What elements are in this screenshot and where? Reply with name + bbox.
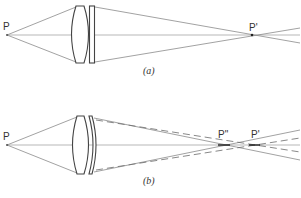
caption-b: (b) (143, 175, 155, 187)
panel-b: P P" P' (b) (3, 116, 300, 187)
incident-ray-lower-b (7, 145, 77, 173)
plane-plate-a (90, 6, 95, 63)
image-label-p-double-prime-b: P" (218, 129, 229, 140)
biconvex-lens-a (72, 6, 89, 63)
refracted-ray-upper-a (95, 7, 300, 43)
panel-a: P P' (a) (3, 6, 300, 77)
optics-diagram: P P' (a) P P" P' (b) (0, 0, 301, 198)
object-label-b: P (3, 131, 10, 142)
incident-ray-upper-a (7, 7, 76, 35)
image-label-p-prime-b: P' (251, 129, 260, 140)
object-label-a: P (3, 21, 10, 32)
incident-ray-upper-b (7, 117, 77, 145)
object-point-p-a (6, 34, 8, 36)
biconvex-lens-b (73, 116, 89, 174)
caption-a: (a) (143, 65, 155, 77)
refracted-ray-lower-a (95, 28, 300, 62)
object-point-p-b (6, 144, 8, 146)
image-label-a: P' (249, 22, 258, 33)
solid-ray-upper-b (94, 118, 300, 160)
solid-ray-lower-b (94, 130, 300, 172)
image-point-p-prime-a (251, 34, 254, 37)
incident-ray-lower-a (7, 35, 76, 62)
